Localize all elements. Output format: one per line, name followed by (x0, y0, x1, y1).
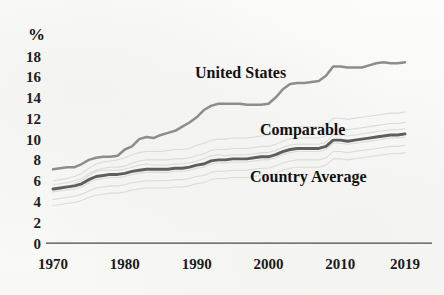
health-spending-chart: 181614121086420 197019801990200020102019… (0, 0, 444, 295)
x-tick-1990: 1990 (182, 256, 212, 272)
x-axis-tick-labels: 197019801990200020102019 (38, 256, 420, 272)
x-tick-1970: 1970 (38, 256, 68, 272)
y-tick-16: 16 (26, 69, 42, 85)
y-axis-tick-labels: 181614121086420 (26, 49, 42, 252)
chart-svg: 181614121086420 197019801990200020102019… (0, 0, 444, 295)
y-tick-6: 6 (34, 173, 42, 189)
y-axis-unit-label: % (28, 25, 45, 44)
y-tick-2: 2 (34, 215, 42, 231)
annotation-country-average: Country Average (250, 168, 367, 186)
x-tick-2019: 2019 (390, 256, 420, 272)
y-tick-8: 8 (34, 152, 42, 168)
y-tick-18: 18 (26, 49, 41, 65)
y-tick-14: 14 (26, 90, 42, 106)
x-tick-2000: 2000 (254, 256, 284, 272)
y-tick-4: 4 (34, 194, 42, 210)
annotation-united-states: United States (195, 64, 286, 81)
y-tick-10: 10 (26, 132, 41, 148)
x-tick-1980: 1980 (110, 256, 140, 272)
annotation-comparable: Comparable (260, 121, 345, 139)
y-tick-0: 0 (34, 236, 42, 252)
y-tick-12: 12 (26, 111, 41, 127)
x-tick-2010: 2010 (325, 256, 355, 272)
